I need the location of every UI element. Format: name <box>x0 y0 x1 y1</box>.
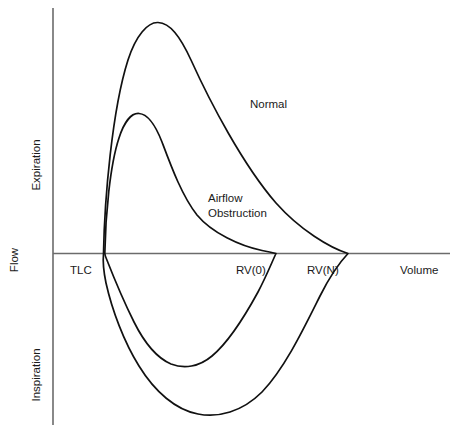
x-tick-label-tlc: TLC <box>70 264 92 276</box>
series-label-obstruction: Obstruction <box>208 207 267 219</box>
x-tick-label-rvn: RV(N) <box>307 264 339 276</box>
y-axis-label-expiration: Expiration <box>30 139 42 190</box>
series-label-normal: Normal <box>250 98 287 110</box>
x-tick-label-rv0: RV(0) <box>236 264 266 276</box>
y-axis-label-inspiration: Inspiration <box>30 348 42 401</box>
series-label-airflow: Airflow <box>208 192 243 204</box>
y-axis-title-flow: Flow <box>8 247 20 272</box>
flow-volume-loop-chart: TLC RV(0) RV(N) Volume Expiration Flow I… <box>0 0 469 436</box>
x-axis-title-volume: Volume <box>400 264 438 276</box>
